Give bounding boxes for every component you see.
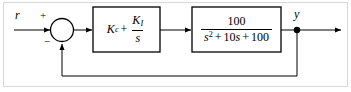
plant-den-coefficient: 10 xyxy=(224,30,236,44)
controller-integral-fraction: KI s xyxy=(129,14,146,45)
controller-integral-numerator: KI xyxy=(129,14,146,30)
summing-junction xyxy=(51,19,74,42)
plant-numerator: 100 xyxy=(224,15,248,29)
controller-integral-denominator: s xyxy=(132,30,143,45)
controller-gain-symbol: K xyxy=(107,22,115,37)
summing-junction-minus-sign: − xyxy=(44,36,50,47)
summing-junction-plus-sign: + xyxy=(40,10,46,21)
plant-den-operator-2: + xyxy=(240,30,251,44)
plant-den-constant: 100 xyxy=(251,30,269,44)
controller-transfer-function: Kc + KI s xyxy=(93,7,160,52)
input-signal-label: r xyxy=(15,9,20,21)
plant-fraction: 100 s2+10s+100 xyxy=(201,15,272,44)
plant-den-operator-1: + xyxy=(213,30,224,44)
controller-integral-gain-subscript: I xyxy=(140,19,143,28)
plant-denominator: s2+10s+100 xyxy=(201,29,272,44)
output-signal-label: y xyxy=(294,8,299,20)
plant-transfer-function: 100 s2+10s+100 xyxy=(192,7,281,52)
block-diagram: r + − y Kc + KI s 100 s2+10s+100 xyxy=(0,0,351,92)
controller-plus-operator: + xyxy=(119,22,130,37)
